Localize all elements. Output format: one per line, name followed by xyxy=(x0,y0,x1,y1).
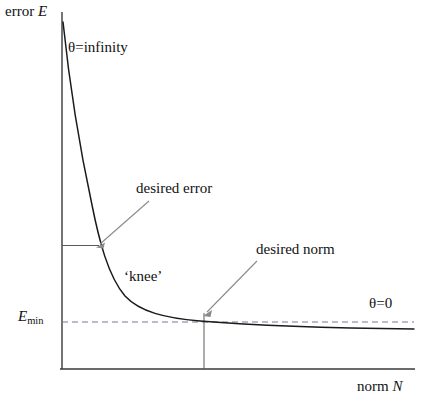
y-axis-title-symbol: E xyxy=(38,3,47,19)
theta-zero-label: θ=0 xyxy=(369,296,392,311)
emin-subscript: min xyxy=(27,315,43,326)
y-axis-title: error E xyxy=(5,4,47,19)
plot-canvas xyxy=(0,0,422,400)
emin-symbol: E xyxy=(18,308,27,324)
desired-norm-leader xyxy=(203,261,257,317)
lcurve-figure: error E θ=infinity desired error ‘knee’ … xyxy=(0,0,422,400)
error-norm-curve xyxy=(63,22,414,329)
desired-error-label: desired error xyxy=(136,181,212,196)
x-axis-title: norm N xyxy=(357,379,402,394)
x-axis-title-prefix: norm xyxy=(357,378,392,394)
knee-label: ‘knee’ xyxy=(124,269,162,284)
desired-norm-label: desired norm xyxy=(256,242,335,257)
theta-infinity-label: θ=infinity xyxy=(68,40,128,55)
x-axis-title-symbol: N xyxy=(392,378,402,394)
desired-error-leader xyxy=(96,201,149,249)
y-axis-title-prefix: error xyxy=(5,3,38,19)
emin-label: Emin xyxy=(18,309,44,327)
